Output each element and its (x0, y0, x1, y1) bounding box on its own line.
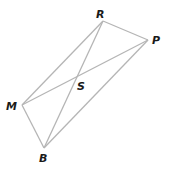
label-b: B (39, 152, 47, 165)
label-r: R (96, 8, 104, 21)
diagonal-mp (22, 40, 148, 105)
side-pb (44, 40, 148, 148)
diagonal-rb (44, 21, 103, 148)
side-rp (103, 21, 148, 40)
side-bm (22, 105, 44, 148)
label-p: P (152, 34, 160, 47)
label-m: M (6, 100, 17, 113)
label-s: S (77, 80, 85, 93)
side-mr (22, 21, 103, 105)
figure: R P B M S (0, 0, 169, 173)
